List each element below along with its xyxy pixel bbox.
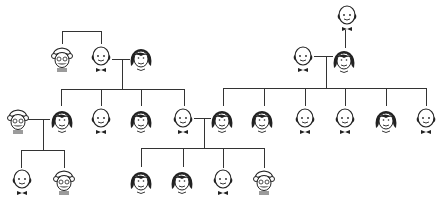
woman-face-icon <box>126 106 156 140</box>
connector-line <box>61 89 62 106</box>
connector-line <box>141 89 142 106</box>
bald-man-face-icon <box>288 44 318 78</box>
connector-line <box>223 148 224 168</box>
connector-line <box>64 150 65 168</box>
woman-face-icon <box>329 46 359 80</box>
bald-man-face-icon <box>208 167 238 201</box>
connector-line <box>345 88 346 106</box>
woman-face-icon <box>47 106 77 140</box>
grandmother-face-icon <box>49 167 79 201</box>
connector-line <box>62 31 101 32</box>
grandmother-face-icon <box>47 44 77 78</box>
connector-line <box>21 150 64 151</box>
bald-man-face-icon <box>7 167 37 201</box>
connector-line <box>305 88 306 106</box>
connector-line <box>43 119 44 150</box>
connector-line <box>386 88 387 106</box>
connector-line <box>101 31 102 44</box>
woman-face-icon <box>126 44 156 78</box>
connector-line <box>426 88 427 106</box>
family-tree-diagram <box>0 0 446 209</box>
woman-face-icon <box>247 106 277 140</box>
woman-face-icon <box>167 167 197 201</box>
connector-line <box>223 88 426 89</box>
grandmother-face-icon <box>249 167 279 201</box>
bald-man-face-icon <box>168 106 198 140</box>
bald-man-face-icon <box>290 106 320 140</box>
connector-line <box>122 59 123 89</box>
connector-line <box>326 56 327 88</box>
connector-line <box>21 150 22 168</box>
connector-line <box>264 88 265 106</box>
connector-line <box>184 89 185 106</box>
connector-line <box>61 89 184 90</box>
bald-man-face-icon <box>332 3 362 37</box>
bald-man-face-icon <box>86 44 116 78</box>
connector-line <box>141 148 264 149</box>
connector-line <box>62 31 63 44</box>
connector-line <box>183 148 184 167</box>
grandmother-face-icon <box>3 106 33 140</box>
connector-line <box>264 148 265 168</box>
connector-line <box>204 118 205 148</box>
connector-line <box>141 148 142 167</box>
woman-face-icon <box>126 167 156 201</box>
connector-line <box>101 89 102 106</box>
connector-line <box>223 88 224 106</box>
bald-man-face-icon <box>86 106 116 140</box>
bald-man-face-icon <box>411 106 441 140</box>
woman-face-icon <box>207 106 237 140</box>
bald-man-face-icon <box>330 106 360 140</box>
woman-face-icon <box>371 106 401 140</box>
